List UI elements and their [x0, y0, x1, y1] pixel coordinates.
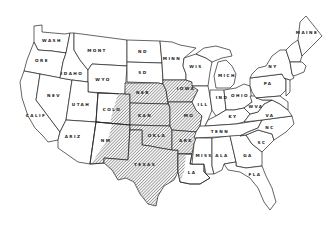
state-label-ohio: OHIO	[231, 93, 249, 98]
state-label-fla: FLA	[249, 172, 262, 177]
state-label-calif: CALIF	[26, 113, 46, 118]
state-label-ariz: ARIZ	[65, 134, 82, 139]
state-label-nd: ND	[138, 49, 148, 54]
state-label-ny: NY	[268, 64, 277, 69]
state-label-pa: PA	[264, 81, 273, 86]
state-label-maine: MAINE	[296, 30, 318, 35]
state-label-wyo: WYO	[95, 77, 110, 82]
state-label-colo: COLO	[103, 107, 121, 112]
state-label-kan: KAN	[138, 113, 152, 118]
state-label-miss: MISS	[195, 153, 212, 158]
state-label-iowa: IOWA	[177, 86, 195, 91]
state-label-tenn: TENN	[211, 129, 229, 134]
state-label-ill: ILL	[197, 102, 208, 107]
us-map: WASHORECALIFNEVIDAHOMONTWYOUTAHCOLOARIZN…	[0, 0, 336, 227]
state-label-la: LA	[188, 170, 197, 175]
state-label-sd: SD	[138, 70, 147, 75]
state-fla	[224, 162, 276, 210]
state-mass-ct-ri	[290, 62, 306, 76]
state-label-ga: GA	[243, 153, 252, 158]
state-label-texas: TEXAS	[134, 162, 156, 167]
state-label-mich: MICH	[218, 73, 236, 78]
state-label-nm: NM	[101, 138, 111, 143]
state-label-ark: ARK	[179, 138, 193, 143]
state-label-nev: NEV	[47, 93, 61, 98]
state-label-nc: NC	[265, 125, 274, 130]
state-label-sc: SC	[258, 140, 267, 145]
state-label-ala: ALA	[215, 153, 228, 158]
state-label-ky: KY	[228, 114, 237, 119]
state-ariz	[58, 120, 96, 164]
state-label-minn: MINN	[163, 56, 181, 61]
state-maine	[298, 16, 322, 56]
state-label-okla: OKLA	[148, 133, 166, 138]
state-label-wis: WIS	[189, 64, 202, 69]
state-label-nebr: NEB	[136, 90, 150, 95]
state-label-mont: MONT	[87, 48, 107, 53]
state-label-wash: WASH	[42, 38, 62, 43]
state-label-va: VA	[266, 113, 275, 118]
state-label-ind: IND	[216, 95, 229, 100]
state-label-mo: MO	[184, 113, 195, 118]
state-label-wva: WVA	[248, 104, 263, 109]
state-label-ore: ORE	[35, 58, 49, 63]
state-label-idaho: IDAHO	[61, 71, 83, 76]
state-label-utah: UTAH	[72, 102, 90, 107]
